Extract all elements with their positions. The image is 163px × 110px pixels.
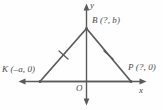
- vertex-markers: [39, 27, 133, 83]
- tick-mark-right-leg: [104, 51, 113, 59]
- x-axis-right-arrowhead: [140, 79, 147, 85]
- origin-label: O: [76, 84, 83, 93]
- vertex-dot-k: [39, 80, 42, 83]
- y-axis-label: y: [90, 1, 94, 10]
- vertex-label-b: B (?, b): [92, 16, 120, 25]
- y-axis-top-arrowhead: [84, 4, 90, 11]
- x-axis-label: x: [139, 86, 143, 95]
- triangle-kbp: [40, 29, 131, 82]
- vertex-dot-p: [130, 80, 133, 83]
- y-axis: [84, 4, 90, 106]
- y-axis-bottom-arrowhead: [84, 99, 90, 106]
- geometry-figure: B (?, b) K (–a, 0) P (?, 0) O x y: [0, 0, 163, 110]
- vertex-label-k: K (–a, 0): [2, 65, 35, 74]
- x-axis-left-arrowhead: [19, 79, 26, 85]
- vertex-dot-b: [85, 27, 88, 30]
- vertex-label-p: P (?, 0): [128, 63, 156, 72]
